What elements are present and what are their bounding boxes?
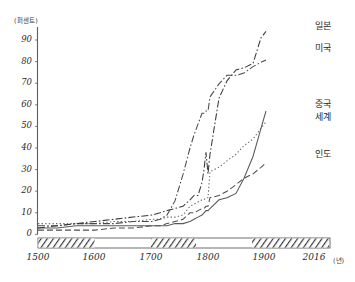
era-segment-hatched-1	[39, 239, 95, 248]
x-tick-label: 1600	[74, 252, 114, 262]
series-label-world: 세계	[315, 113, 331, 122]
series-line-japan	[38, 31, 266, 228]
x-tick-label: 1500	[18, 252, 58, 262]
x-tick-label: 1700	[131, 252, 171, 262]
y-tick-label: 20	[12, 185, 32, 195]
y-tick-label: 30	[12, 164, 32, 174]
x-tick-label: 2016	[294, 252, 334, 262]
era-segment-hatched-2	[151, 239, 196, 248]
percent-over-time-line-chart	[0, 0, 355, 282]
y-tick-label: 60	[12, 99, 32, 109]
series-line-india	[38, 163, 266, 230]
series-line-world	[38, 122, 266, 224]
y-tick-label: 0	[12, 228, 32, 238]
y-tick-label: 10	[12, 207, 32, 217]
y-tick-label: 40	[12, 142, 32, 152]
series-label-usa: 미국	[315, 44, 331, 53]
series-label-china: 중국	[315, 100, 331, 109]
era-bar	[38, 238, 330, 248]
era-segment-hatched-3	[252, 239, 329, 248]
y-tick-label: 50	[12, 120, 32, 130]
series-line-china	[38, 111, 266, 228]
series-label-japan: 일본	[315, 22, 331, 31]
y-tick-label: 70	[12, 77, 32, 87]
y-axis	[35, 27, 38, 235]
series-label-india: 인도	[315, 150, 331, 159]
series-line-usa	[38, 60, 266, 226]
y-axis-title: (퍼센트)	[14, 15, 38, 25]
y-tick-label: 90	[12, 34, 32, 44]
y-tick-label: 80	[12, 56, 32, 66]
x-tick-label: 1800	[188, 252, 228, 262]
x-axis-unit-label: (년)	[333, 255, 344, 265]
x-tick-label: 1900	[244, 252, 284, 262]
